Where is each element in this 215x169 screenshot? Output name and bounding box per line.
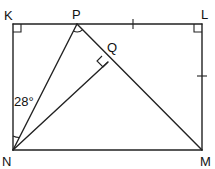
angle-label-28: 28° (14, 94, 34, 109)
right-angle-l-icon (194, 24, 202, 32)
label-k: K (4, 8, 13, 23)
right-angle-q-icon (97, 56, 108, 67)
label-q: Q (107, 40, 117, 55)
label-n: N (2, 154, 11, 169)
label-m: M (200, 154, 211, 169)
segment-np (13, 24, 77, 150)
label-p: P (72, 7, 81, 22)
angle-arc-n-icon (13, 136, 19, 138)
right-angle-k-icon (13, 24, 21, 32)
segment-pm (77, 24, 202, 150)
label-l: L (201, 7, 208, 22)
geometry-diagram: K P L Q N M 28° (0, 0, 215, 169)
angle-arc-p-icon (73, 30, 82, 32)
